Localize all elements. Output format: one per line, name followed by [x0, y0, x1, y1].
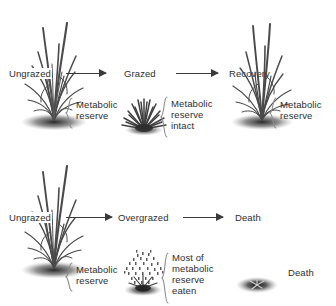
arrow-ungrazed-to-grazed — [66, 69, 106, 78]
stage-label-grazed: Grazed — [124, 68, 156, 79]
figure-canvas: Ungrazed Grazed Recovery — [0, 0, 336, 306]
arrow-grazed-to-recovery — [176, 69, 218, 78]
brace-most-of-metabolic-reserve-eaten — [160, 252, 170, 304]
stage-label-ungrazed-bottom: Ungrazed — [8, 212, 52, 223]
brace-metabolic-reserve-intact — [159, 96, 169, 138]
annotation-metabolic-reserve-recovery: Metabolic reserve — [280, 99, 322, 121]
brace-metabolic-reserve-recovery — [268, 97, 278, 129]
dead-plant-icon — [232, 272, 282, 298]
arrow-overgrazed-to-death — [183, 213, 223, 222]
arrow-ungrazed-to-overgrazed — [66, 213, 112, 222]
stage-label-death: Death — [235, 212, 261, 223]
annotation-metabolic-reserve-ungrazed-top: Metabolic reserve — [76, 99, 118, 121]
annotation-death-bottom: Death — [288, 267, 314, 278]
annotation-metabolic-reserve-ungrazed-bottom: Metabolic reserve — [76, 264, 118, 286]
stage-label-overgrazed: Overgrazed — [118, 212, 169, 223]
brace-metabolic-reserve-ungrazed-top — [64, 97, 74, 129]
annotation-metabolic-reserve-intact: Metabolic reserve intact — [171, 98, 213, 131]
annotation-most-of-metabolic-reserve-eaten: Most of metabolic reserve eaten — [172, 252, 214, 296]
brace-metabolic-reserve-ungrazed-bottom — [64, 262, 74, 292]
stage-label-ungrazed-top: Ungrazed — [8, 68, 52, 79]
